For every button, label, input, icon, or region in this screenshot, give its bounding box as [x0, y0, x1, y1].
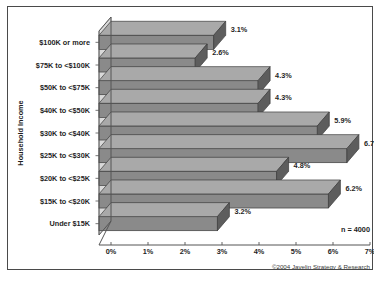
- bar-value-label-1: 3.1%: [231, 25, 248, 34]
- bars-group: [99, 21, 359, 230]
- x-tick-label-0: 0%: [106, 247, 117, 256]
- bar-top-face: [99, 203, 229, 217]
- chart-screenshot: 3.1%$100K or more2.6%$75K to <$100K4.3%$…: [0, 0, 385, 284]
- bar-value-label-9: 3.2%: [234, 207, 251, 216]
- bar-value-label-3: 4.3%: [275, 71, 292, 80]
- x-tick-label-4: 4%: [254, 247, 265, 256]
- bar-chart: 3.1%$100K or more2.6%$75K to <$100K4.3%$…: [8, 7, 374, 271]
- chart-frame: 3.1%$100K or more2.6%$75K to <$100K4.3%$…: [7, 6, 373, 270]
- x-tick-label-3: 3%: [217, 247, 228, 256]
- category-label-3: $50K to <$75K: [40, 83, 91, 92]
- bar-top-face: [99, 135, 359, 149]
- category-label-4: $40K to <$50K: [40, 106, 91, 115]
- x-tick-label-2: 2%: [180, 247, 191, 256]
- bar-top-face: [99, 21, 226, 35]
- bar-top-face: [99, 157, 289, 171]
- category-label-1: $100K or more: [39, 38, 90, 47]
- category-label-9: Under $15K: [49, 219, 90, 228]
- sample-size-note: n = 4000: [341, 225, 370, 234]
- bar-value-label-7: 4.8%: [294, 161, 311, 170]
- bar-top-face: [99, 67, 270, 81]
- x-tick-label-1: 1%: [143, 247, 154, 256]
- bar-value-label-4: 4.3%: [275, 93, 292, 102]
- x-tick-label-5: 5%: [291, 247, 302, 256]
- y-axis-title: Household Income: [16, 100, 25, 165]
- x-tick-label-7: 7%: [365, 247, 374, 256]
- x-tick-label-6: 6%: [328, 247, 339, 256]
- bar-front-face: [99, 217, 217, 231]
- bar-value-label-6: 6.7%: [364, 139, 374, 148]
- category-label-6: $25K to <$30K: [40, 151, 91, 160]
- category-label-2: $75K to <$100K: [36, 61, 91, 70]
- bar-top-face: [99, 44, 207, 58]
- copyright-note: ©2004 Javelin Strategy & Research: [272, 263, 371, 270]
- bar-9: [99, 203, 229, 231]
- bar-value-label-5: 5.9%: [334, 116, 351, 125]
- category-label-7: $20K to <$25K: [40, 174, 91, 183]
- bar-value-label-8: 6.2%: [345, 184, 362, 193]
- category-label-5: $30K to <$40K: [40, 129, 91, 138]
- bar-top-face: [99, 89, 270, 103]
- bar-top-face: [99, 112, 329, 126]
- category-label-8: $15K to <$20K: [40, 197, 91, 206]
- bar-value-label-2: 2.6%: [212, 48, 229, 57]
- chart-canvas: 3.1%$100K or more2.6%$75K to <$100K4.3%$…: [8, 7, 374, 271]
- bar-top-face: [99, 180, 340, 194]
